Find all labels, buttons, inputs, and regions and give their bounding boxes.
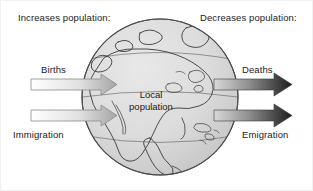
local-population-line1: Local [112,89,190,101]
label-births: Births [41,64,66,75]
label-immigration: Immigration [13,129,64,140]
population-flow-diagram: Increases population: Decreases populati… [0,0,313,191]
label-emigration: Emigration [242,129,288,140]
inflow-arrow-births [31,74,117,95]
inflow-arrow-immigration [31,105,117,126]
increases-population-heading: Increases population: [18,12,110,23]
decreases-population-heading: Decreases population: [200,12,297,23]
label-local-population: Local population [112,89,190,112]
label-deaths: Deaths [242,64,273,75]
local-population-line2: population [112,101,190,113]
